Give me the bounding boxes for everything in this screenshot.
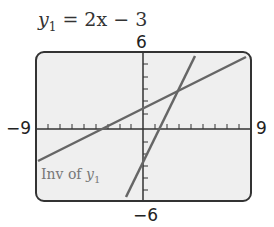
ymax-label: 6: [136, 32, 147, 52]
xmin-label: −9: [6, 118, 31, 138]
inv-var: y: [86, 166, 94, 182]
inv-sub: 1: [94, 174, 100, 185]
ymin-label: −6: [133, 205, 158, 225]
inverse-label: Inv of y1: [41, 166, 100, 185]
xmax-label: 9: [256, 118, 267, 138]
inv-prefix: Inv of: [41, 166, 86, 182]
